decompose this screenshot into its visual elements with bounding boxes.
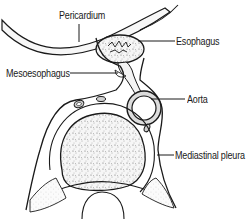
label-pericardium: Pericardium [59, 10, 105, 21]
mesoesophagus-shape [118, 62, 142, 95]
label-aorta: Aorta [187, 94, 208, 105]
neural-canal [82, 192, 124, 219]
label-esophagus: Esophagus [176, 36, 219, 47]
left-rib-head [30, 178, 66, 212]
label-mesoesophagus: Mesoesophagus [6, 68, 70, 79]
vessel-2 [97, 97, 106, 102]
label-mediastinal-pleura: Mediastinal pleura [175, 150, 245, 161]
vertebral-body [61, 113, 146, 190]
anatomy-diagram [0, 0, 247, 219]
aorta-inner [132, 96, 156, 120]
esophagus-shape [96, 35, 144, 63]
